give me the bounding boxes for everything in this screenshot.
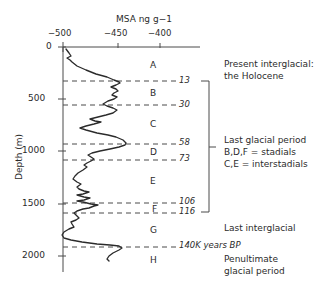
- axes: [58, 42, 200, 272]
- bracket-outline: [201, 81, 209, 212]
- msa-depth-profile-figure: MSA ng g−1 −500 −450 −400 0 500 1000 150…: [0, 0, 320, 297]
- horizon-dashed-lines: [63, 81, 178, 247]
- plot-canvas: [0, 0, 320, 297]
- bracket-last-glacial: [201, 81, 216, 212]
